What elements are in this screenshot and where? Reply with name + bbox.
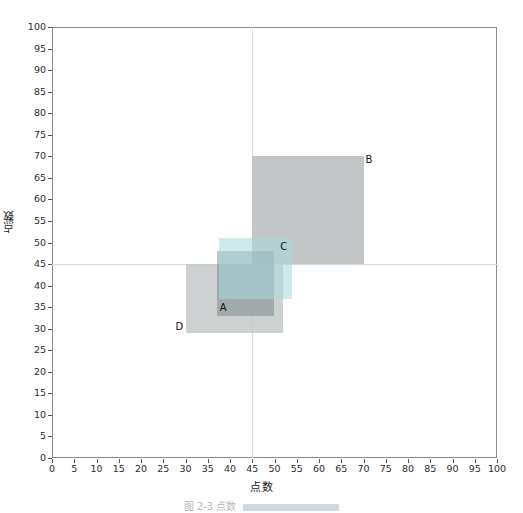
y-tick-label: 95 <box>20 43 46 54</box>
y-tick-mark <box>48 49 52 50</box>
x-tick-mark <box>341 459 342 463</box>
x-tick-mark <box>97 459 98 463</box>
y-tick-label: 60 <box>20 193 46 204</box>
y-tick-label: 35 <box>20 301 46 312</box>
y-tick-mark <box>48 178 52 179</box>
x-tick-mark <box>74 459 75 463</box>
x-tick-mark <box>208 459 209 463</box>
y-tick-label: 50 <box>20 237 46 248</box>
x-tick-mark <box>230 459 231 463</box>
y-tick-label: 100 <box>20 21 46 32</box>
rectangle-label-b: B <box>366 154 373 165</box>
y-tick-label: 10 <box>20 409 46 420</box>
y-tick-mark <box>48 70 52 71</box>
x-tick-mark <box>497 459 498 463</box>
rectangle-label-c: C <box>280 241 287 252</box>
y-tick-label: 70 <box>20 150 46 161</box>
x-tick-mark <box>252 459 253 463</box>
y-tick-mark <box>48 350 52 351</box>
y-tick-label: 75 <box>20 129 46 140</box>
y-tick-mark <box>48 113 52 114</box>
y-tick-label: 90 <box>20 64 46 75</box>
y-tick-label: 30 <box>20 323 46 334</box>
caption-highlight-bar <box>243 504 339 511</box>
y-tick-label: 55 <box>20 215 46 226</box>
y-tick-label: 45 <box>20 258 46 269</box>
y-tick-mark <box>48 27 52 28</box>
y-tick-mark <box>48 135 52 136</box>
y-tick-mark <box>48 307 52 308</box>
y-tick-mark <box>48 372 52 373</box>
x-tick-mark <box>141 459 142 463</box>
y-tick-mark <box>48 415 52 416</box>
x-axis-title: 点数 <box>0 478 523 494</box>
caption-text: 图 2-3 点数 <box>184 501 237 512</box>
y-tick-mark <box>48 286 52 287</box>
x-tick-mark <box>163 459 164 463</box>
y-tick-mark <box>48 221 52 222</box>
y-tick-mark <box>48 436 52 437</box>
y-tick-label: 85 <box>20 86 46 97</box>
x-tick-mark <box>275 459 276 463</box>
y-axis-title: 点数 <box>4 210 18 233</box>
y-tick-label: 65 <box>20 172 46 183</box>
y-tick-mark <box>48 199 52 200</box>
x-tick-label: 100 <box>484 463 510 474</box>
y-tick-label: 0 <box>20 452 46 463</box>
x-tick-mark <box>453 459 454 463</box>
x-tick-mark <box>119 459 120 463</box>
x-tick-mark <box>52 459 53 463</box>
figure-caption: 图 2-3 点数 <box>0 498 523 513</box>
y-tick-mark <box>48 156 52 157</box>
x-tick-mark <box>475 459 476 463</box>
x-tick-mark <box>386 459 387 463</box>
x-tick-mark <box>186 459 187 463</box>
rectangle-label-a: A <box>220 302 227 313</box>
y-tick-mark <box>48 92 52 93</box>
x-tick-mark <box>408 459 409 463</box>
y-tick-label: 15 <box>20 387 46 398</box>
rectangle-label-d: D <box>176 321 184 332</box>
y-tick-label: 40 <box>20 280 46 291</box>
y-tick-label: 25 <box>20 344 46 355</box>
y-tick-label: 20 <box>20 366 46 377</box>
y-tick-label: 5 <box>20 430 46 441</box>
x-tick-mark <box>364 459 365 463</box>
y-tick-mark <box>48 393 52 394</box>
x-tick-mark <box>430 459 431 463</box>
y-tick-mark <box>48 243 52 244</box>
y-tick-label: 80 <box>20 107 46 118</box>
x-tick-mark <box>297 459 298 463</box>
x-tick-mark <box>319 459 320 463</box>
y-tick-mark <box>48 329 52 330</box>
